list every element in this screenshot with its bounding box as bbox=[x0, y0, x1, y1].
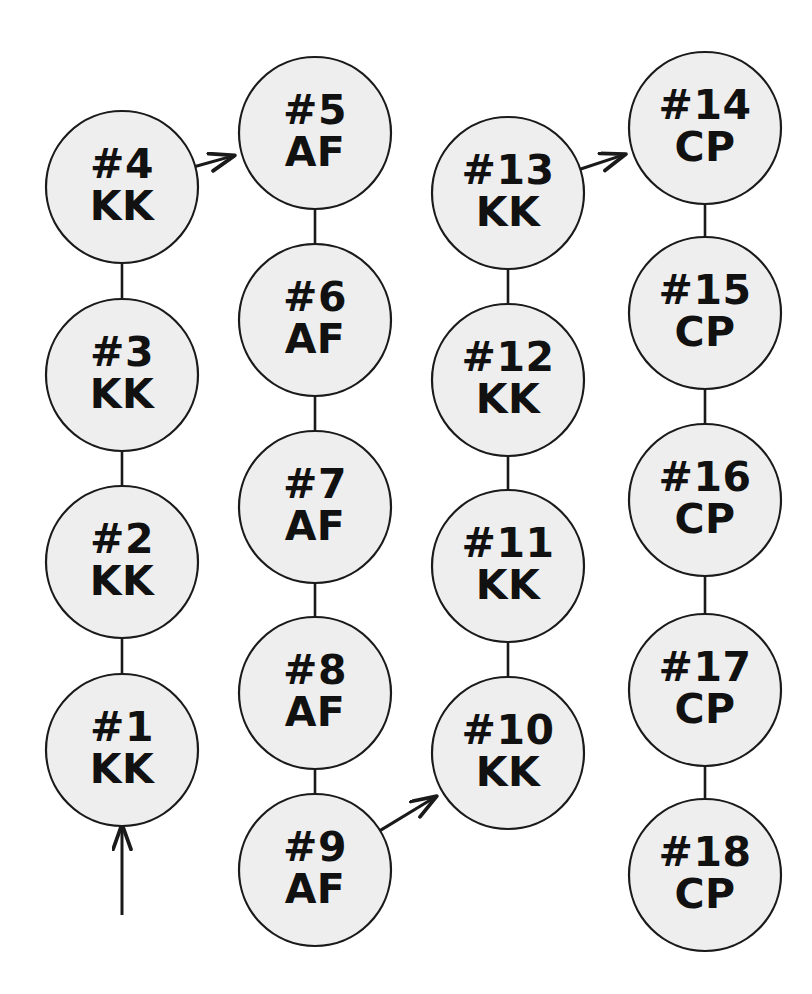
edge-layer bbox=[122, 155, 705, 831]
node-11-KK[interactable]: #11KK bbox=[432, 490, 584, 642]
edge-arrow-n9-to-n10 bbox=[379, 797, 435, 831]
node-number-label: #16 bbox=[659, 453, 752, 501]
node-number-label: #18 bbox=[659, 828, 752, 876]
diagram-svg: #1KK#2KK#3KK#4KK#5AF#6AF#7AF#8AF#9AF#10K… bbox=[0, 0, 812, 994]
node-code-label: CP bbox=[674, 308, 735, 356]
node-16-CP[interactable]: #16CP bbox=[629, 424, 781, 576]
node-number-label: #17 bbox=[659, 643, 752, 691]
node-code-label: KK bbox=[90, 557, 156, 605]
node-code-label: AF bbox=[285, 128, 346, 176]
node-15-CP[interactable]: #15CP bbox=[629, 237, 781, 389]
node-number-label: #12 bbox=[462, 333, 555, 381]
node-3-KK[interactable]: #3KK bbox=[46, 299, 198, 451]
node-17-CP[interactable]: #17CP bbox=[629, 614, 781, 766]
node-number-label: #3 bbox=[90, 328, 154, 376]
node-7-AF[interactable]: #7AF bbox=[239, 431, 391, 583]
node-number-label: #1 bbox=[90, 703, 154, 751]
node-code-label: AF bbox=[285, 865, 346, 913]
node-2-KK[interactable]: #2KK bbox=[46, 486, 198, 638]
node-code-label: AF bbox=[285, 315, 346, 363]
node-5-AF[interactable]: #5AF bbox=[239, 57, 391, 209]
node-number-label: #6 bbox=[283, 273, 347, 321]
node-number-label: #11 bbox=[462, 519, 555, 567]
node-code-label: AF bbox=[285, 502, 346, 550]
node-number-label: #5 bbox=[283, 86, 347, 134]
node-code-label: KK bbox=[476, 188, 542, 236]
node-layer: #1KK#2KK#3KK#4KK#5AF#6AF#7AF#8AF#9AF#10K… bbox=[46, 52, 781, 951]
node-6-AF[interactable]: #6AF bbox=[239, 244, 391, 396]
node-code-label: CP bbox=[674, 685, 735, 733]
node-code-label: CP bbox=[674, 123, 735, 171]
node-code-label: CP bbox=[674, 495, 735, 543]
node-18-CP[interactable]: #18CP bbox=[629, 799, 781, 951]
node-10-KK[interactable]: #10KK bbox=[432, 677, 584, 829]
diagram-canvas: #1KK#2KK#3KK#4KK#5AF#6AF#7AF#8AF#9AF#10K… bbox=[0, 0, 812, 994]
node-code-label: KK bbox=[476, 561, 542, 609]
node-number-label: #8 bbox=[283, 646, 347, 694]
node-number-label: #2 bbox=[90, 515, 154, 563]
node-number-label: #7 bbox=[283, 460, 347, 508]
node-code-label: KK bbox=[90, 745, 156, 793]
node-code-label: KK bbox=[476, 748, 542, 796]
node-number-label: #10 bbox=[462, 706, 555, 754]
node-8-AF[interactable]: #8AF bbox=[239, 617, 391, 769]
node-code-label: KK bbox=[476, 375, 542, 423]
node-number-label: #14 bbox=[659, 81, 752, 129]
node-number-label: #15 bbox=[659, 266, 752, 314]
edge-arrow-n13-to-n14 bbox=[579, 155, 624, 170]
node-1-KK[interactable]: #1KK bbox=[46, 674, 198, 826]
node-number-label: #4 bbox=[90, 140, 154, 188]
node-13-KK[interactable]: #13KK bbox=[432, 117, 584, 269]
node-12-KK[interactable]: #12KK bbox=[432, 304, 584, 456]
node-14-CP[interactable]: #14CP bbox=[629, 52, 781, 204]
edge-arrow-n4-to-n5 bbox=[194, 156, 233, 167]
node-number-label: #13 bbox=[462, 146, 555, 194]
node-9-AF[interactable]: #9AF bbox=[239, 794, 391, 946]
node-number-label: #9 bbox=[283, 823, 347, 871]
node-4-KK[interactable]: #4KK bbox=[46, 111, 198, 263]
node-code-label: KK bbox=[90, 182, 156, 230]
node-code-label: KK bbox=[90, 370, 156, 418]
node-code-label: AF bbox=[285, 688, 346, 736]
node-code-label: CP bbox=[674, 870, 735, 918]
